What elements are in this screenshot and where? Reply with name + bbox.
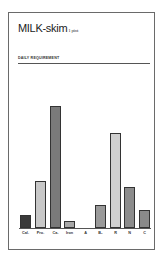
bar <box>35 181 46 228</box>
x-tick-label: A <box>78 231 94 235</box>
bar <box>50 106 61 228</box>
x-tick-label: Pro. <box>33 231 49 235</box>
bar <box>124 187 135 228</box>
bar <box>20 215 31 228</box>
x-tick-label: B₁ <box>93 231 109 235</box>
bar <box>110 133 121 228</box>
bar <box>64 221 75 228</box>
x-tick-label: Cal. <box>18 231 34 235</box>
bar <box>139 210 150 228</box>
x-tick-label: C <box>137 231 153 235</box>
bar <box>95 205 106 228</box>
bar-plot: Cal.Pro.Ca.IronAB₁RNC <box>0 0 166 261</box>
x-tick-label: N <box>122 231 138 235</box>
x-tick-label: Iron <box>62 231 78 235</box>
x-axis-baseline <box>19 228 151 229</box>
